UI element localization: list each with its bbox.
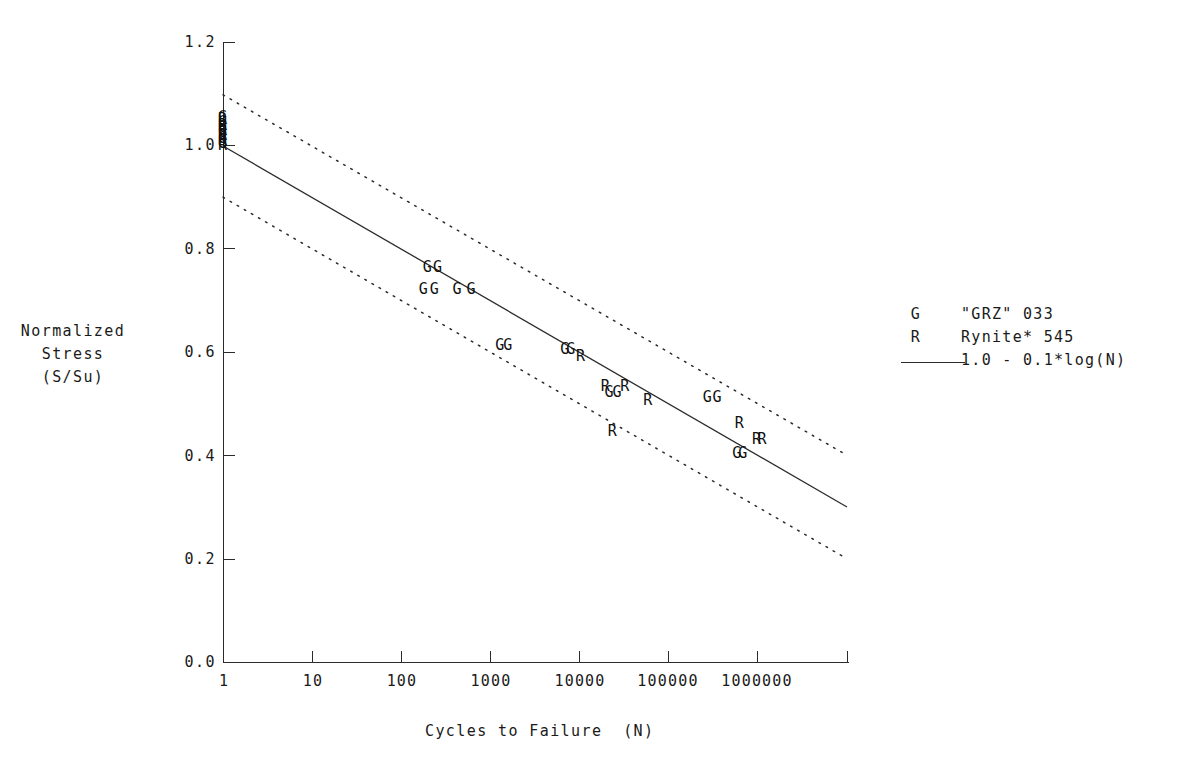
data-point-R: R	[735, 416, 744, 431]
x-tick-label-1000000: 1000000	[701, 672, 813, 690]
y-tick-label-0.6: 0.6	[136, 343, 216, 361]
data-point-G: G	[738, 446, 747, 461]
y-tick-0.4	[223, 455, 235, 456]
y-tick-label-0.2: 0.2	[136, 550, 216, 568]
y-axis-title: Normalized Stress (S/Su)	[18, 320, 128, 389]
data-point-R: R	[757, 432, 766, 447]
data-point-G: G	[467, 282, 476, 297]
y-tick-label-0.4: 0.4	[136, 447, 216, 465]
data-point-G: G	[419, 282, 428, 297]
data-point-R: R	[576, 349, 585, 364]
fatigue-chart-figure: 1.2 1.0 0.8 0.6 0.4 0.2 0.0 1 10 100 100…	[0, 0, 1202, 768]
legend-label-grz: "GRZ" 033	[961, 305, 1054, 323]
data-point-G: G	[430, 282, 439, 297]
legend-row-rynite: R Rynite* 545	[905, 328, 1185, 351]
data-point-R: R	[601, 379, 610, 394]
x-axis-title: Cycles to Failure (N)	[425, 722, 654, 740]
trend-line	[223, 146, 847, 507]
data-point-G: G	[703, 390, 712, 405]
data-point-G: G	[433, 260, 442, 275]
data-point-R: R	[218, 138, 227, 153]
lower-bound-line	[223, 197, 847, 559]
y-tick-0.2	[223, 559, 235, 560]
x-tick-10000	[579, 651, 580, 663]
x-tick-1	[223, 651, 224, 663]
x-tick-100	[401, 651, 402, 663]
legend-row-grz: G "GRZ" 033	[905, 305, 1185, 328]
data-point-R: R	[608, 424, 617, 439]
x-tick-10	[312, 651, 313, 663]
legend-label-trend: 1.0 - 0.1*log(N)	[961, 351, 1126, 369]
data-point-R: R	[620, 379, 629, 394]
y-tick-label-1.2: 1.2	[136, 33, 216, 51]
upper-bound-line	[223, 95, 847, 456]
x-tick-10000000	[847, 651, 848, 663]
data-point-G: G	[566, 342, 575, 357]
y-tick-0.8	[223, 248, 235, 249]
data-point-G: G	[423, 260, 432, 275]
legend-row-trend: 1.0 - 0.1*log(N)	[905, 351, 1185, 374]
data-point-G: G	[713, 390, 722, 405]
x-tick-1000	[490, 651, 491, 663]
y-tick-label-0.8: 0.8	[136, 240, 216, 258]
legend-key-r: R	[905, 328, 927, 346]
y-tick-label-0.0: 0.0	[136, 653, 216, 671]
y-tick-label-1.0: 1.0	[136, 136, 216, 154]
y-tick-0.6	[223, 352, 235, 353]
y-tick-1.2	[223, 42, 235, 43]
data-point-R: R	[643, 393, 652, 408]
y-tick-0.0	[223, 662, 235, 663]
x-tick-1000000	[757, 651, 758, 663]
legend: G "GRZ" 033 R Rynite* 545 1.0 - 0.1*log(…	[905, 305, 1185, 374]
legend-key-g: G	[905, 305, 927, 323]
legend-line-swatch	[901, 362, 965, 363]
x-axis-line	[223, 662, 849, 663]
data-point-G: G	[452, 282, 461, 297]
legend-label-rynite: Rynite* 545	[961, 328, 1075, 346]
data-point-G: G	[503, 338, 512, 353]
x-tick-100000	[668, 651, 669, 663]
